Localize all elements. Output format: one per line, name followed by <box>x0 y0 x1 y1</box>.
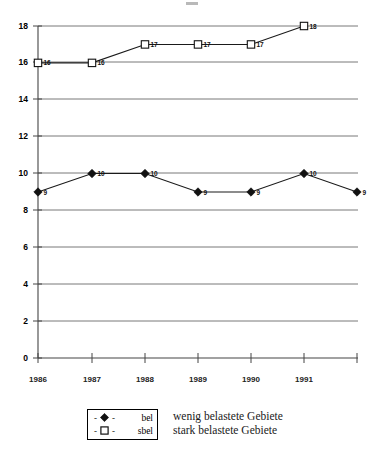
x-tick-label-1991: 1991 <box>295 375 313 384</box>
data-point-marker-square <box>300 22 307 29</box>
data-point-label: 17 <box>151 41 159 48</box>
data-point-marker-diamond <box>353 188 361 196</box>
x-tick-label-1987: 1987 <box>83 375 101 384</box>
data-point-label: 16 <box>44 59 52 66</box>
data-point-label: 10 <box>98 170 106 177</box>
y-tick-label-14: 14 <box>19 94 29 104</box>
y-tick-label-12: 12 <box>19 131 29 141</box>
data-point-label: 9 <box>257 189 261 196</box>
data-point-label: 10 <box>151 170 159 177</box>
data-point-label: 9 <box>204 189 208 196</box>
data-point-marker-square <box>247 41 254 48</box>
data-point-label: 17 <box>257 41 265 48</box>
y-tick-label-8: 8 <box>23 205 28 215</box>
y-tick-label-18: 18 <box>19 21 29 31</box>
y-tick-label-6: 6 <box>23 242 28 252</box>
y-tick-label-2: 2 <box>23 316 28 326</box>
data-point-marker-square <box>194 41 201 48</box>
legend-dash-right-sbel: - <box>110 426 117 436</box>
legend-row-bel: - - bel <box>92 411 153 424</box>
x-tick-label-1990: 1990 <box>242 375 260 384</box>
data-point-label: 18 <box>310 23 318 30</box>
data-point-label: 16 <box>98 59 106 66</box>
plot-area: 18 16 14 12 10 8 6 4 2 0 1986 1987 1988 … <box>0 0 377 400</box>
data-point-marker-diamond <box>247 188 255 196</box>
series-line-sbel <box>38 26 304 63</box>
y-axis-labels: 18 16 14 12 10 8 6 4 2 0 <box>19 21 29 363</box>
data-point-marker-diamond <box>34 188 42 196</box>
data-point-marker-diamond <box>194 188 202 196</box>
y-tick-label-10: 10 <box>19 168 29 178</box>
data-point-label: 9 <box>363 189 367 196</box>
data-point-marker-square <box>141 41 148 48</box>
legend-abbr-bel: bel <box>127 413 153 423</box>
legend-abbr-sbel: sbel <box>127 426 153 436</box>
line-chart: 18 16 14 12 10 8 6 4 2 0 1986 1987 1988 … <box>0 0 377 460</box>
data-point-label: 9 <box>44 189 48 196</box>
legend-descriptions: wenig belastete Gebiete stark belastete … <box>173 409 283 437</box>
y-tick-label-16: 16 <box>19 57 29 67</box>
filled-diamond-icon <box>99 413 110 422</box>
data-point-label: 17 <box>204 41 212 48</box>
series-sbel: 161617171718 <box>34 22 317 66</box>
legend: - - bel - - sbel wenig belastete Gebiete… <box>87 409 283 440</box>
y-tick-label-4: 4 <box>23 279 28 289</box>
data-point-marker-diamond <box>300 169 308 177</box>
data-point-marker-square <box>88 59 95 66</box>
legend-dash-left-bel: - <box>92 413 99 423</box>
legend-desc-bel: wenig belastete Gebiete <box>173 409 283 423</box>
legend-dash-right-bel: - <box>110 413 117 423</box>
data-point-label: 10 <box>310 170 318 177</box>
data-point-marker-square <box>34 59 41 66</box>
legend-key-box: - - bel - - sbel <box>87 409 158 440</box>
data-point-marker-diamond <box>141 169 149 177</box>
data-point-marker-diamond <box>88 169 96 177</box>
legend-desc-sbel: stark belastete Gebiete <box>173 423 283 437</box>
y-tick-label-0: 0 <box>23 353 28 363</box>
legend-dash-left-sbel: - <box>92 426 99 436</box>
x-tick-label-1988: 1988 <box>136 375 154 384</box>
open-square-icon <box>99 426 110 435</box>
legend-row-sbel: - - sbel <box>92 424 153 437</box>
x-tick-label-1986: 1986 <box>29 375 47 384</box>
x-tick-label-1989: 1989 <box>189 375 207 384</box>
x-axis-labels: 1986 1987 1988 1989 1990 1991 <box>29 375 313 384</box>
